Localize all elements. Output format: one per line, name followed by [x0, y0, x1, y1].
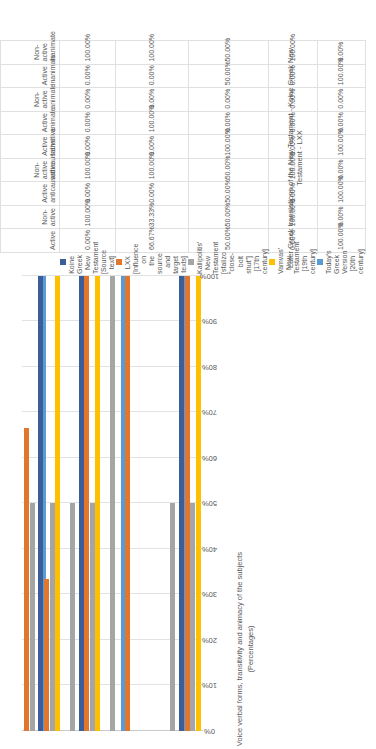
- bar: [170, 504, 175, 732]
- table-cell: 33.33%: [116, 205, 188, 229]
- data-table-head: ActiveNon-activeActive anticausativeNon-…: [1, 41, 60, 277]
- bar: [55, 276, 60, 731]
- bar: [70, 504, 75, 732]
- table-cell: 50.00%: [188, 205, 268, 229]
- table-cell: 0.00%: [317, 88, 365, 112]
- chart-rotation-wrapper: 0%10%20%30%40%50%60%70%80%90%100% Voice …: [0, 0, 376, 749]
- bar: [50, 504, 55, 732]
- table-cell: 0.00%: [116, 64, 188, 88]
- bar-group: [123, 276, 143, 731]
- table-cell: 100.00%: [60, 205, 116, 229]
- value-axis-tick-label: 90%: [195, 317, 225, 326]
- table-column-header: Active inanimate: [1, 64, 60, 88]
- bar: [24, 428, 29, 731]
- table-cell: 50.00%: [188, 158, 268, 182]
- table-cell: 0.00%: [60, 182, 116, 206]
- value-axis-tick-label: 0%: [195, 727, 225, 736]
- table-cell: 0.00%: [60, 135, 116, 159]
- data-table-body: Koine Greek New Testament [Source text]0…: [60, 41, 366, 277]
- bar: [79, 276, 84, 731]
- data-table-wrapper: ActiveNon-activeActive anticausativeNon-…: [0, 40, 276, 276]
- legend-row-header: Today's Greek Version [20th century]: [317, 252, 365, 276]
- table-cell: 0.00%: [317, 205, 365, 229]
- table-column-header: Non-active anticausative: [1, 158, 60, 182]
- table-cell: 50.00%: [188, 182, 268, 206]
- table-cell: 0.00%: [317, 111, 365, 135]
- bar-group: [102, 276, 122, 731]
- table-cell: 0.00%: [60, 229, 116, 253]
- data-table: ActiveNon-activeActive anticausativeNon-…: [0, 40, 366, 276]
- table-row: Today's Greek Version [20th century]100.…: [317, 41, 365, 277]
- table-row: Kallipolitis' New Testament [sfalizo "cl…: [188, 41, 268, 277]
- table-column-header: Active transitive: [1, 135, 60, 159]
- table-cell: 0.00%: [60, 64, 116, 88]
- value-axis-tick-label: 10%: [195, 681, 225, 690]
- bar: [190, 504, 195, 732]
- table-cell: 100.00%: [317, 64, 365, 88]
- legend-row-header: Koine Greek New Testament [Source text]: [60, 252, 116, 276]
- bar: [30, 504, 35, 732]
- bar: [185, 276, 190, 731]
- chart-caption: Later Greek translations of the New Test…: [286, 40, 304, 276]
- table-column-header: Active anticausative: [1, 182, 60, 206]
- value-axis-tick-label: 80%: [195, 363, 225, 372]
- table-cell: 0.00%: [60, 88, 116, 112]
- legend-label: Today's Greek Version [20th century]: [325, 249, 364, 274]
- bar-group: [143, 276, 163, 731]
- bar: [110, 276, 115, 731]
- legend-row-header: Kallipolitis' New Testament [sfalizo "cl…: [188, 252, 268, 276]
- legend-swatch: [269, 259, 275, 265]
- table-cell: 0.00%: [116, 182, 188, 206]
- value-axis-tick-label: 70%: [195, 408, 225, 417]
- bar: [44, 579, 49, 731]
- table-cell: 50.00%: [188, 64, 268, 88]
- bar-group: [82, 276, 102, 731]
- table-cell: 100.00%: [116, 158, 188, 182]
- legend-row-header: LXX [Influence on the source and target …: [116, 252, 188, 276]
- table-cell: 0.00%: [188, 88, 268, 112]
- table-column-header: Active: [1, 229, 60, 253]
- table-cell: 0.00%: [317, 41, 365, 65]
- plot-area: [22, 276, 203, 731]
- legend-swatch: [188, 259, 194, 265]
- chart-figure: 0%10%20%30%40%50%60%70%80%90%100% Voice …: [0, 0, 376, 749]
- value-axis-tick-label: 20%: [195, 636, 225, 645]
- table-column-header: Non-active: [1, 205, 60, 229]
- table-column-header: Active animate: [1, 111, 60, 135]
- table-row: Koine Greek New Testament [Source text]0…: [60, 41, 116, 277]
- table-cell: 0.00%: [317, 158, 365, 182]
- table-column-header: Non-active inanimate: [1, 41, 60, 65]
- table-cell: 0.00%: [116, 135, 188, 159]
- table-cell: 100.00%: [188, 135, 268, 159]
- table-cell: 100.00%: [116, 41, 188, 65]
- table-column-header: Non-active animate: [1, 88, 60, 112]
- value-axis-tick-label: 50%: [195, 499, 225, 508]
- table-cell: 0.00%: [116, 88, 188, 112]
- table-cell: 0.00%: [188, 111, 268, 135]
- table-cell: 100.00%: [317, 182, 365, 206]
- axis-title: Voice verbal forms, transitivity and ani…: [235, 549, 257, 749]
- legend-swatch: [116, 259, 122, 265]
- value-axis-tick-label: 30%: [195, 590, 225, 599]
- value-axis-tick-label: 40%: [195, 545, 225, 554]
- table-cell: 100.00%: [317, 135, 365, 159]
- table-cell: 100.00%: [116, 111, 188, 135]
- table-cell: 0.00%: [60, 111, 116, 135]
- table-cell: 100.00%: [60, 41, 116, 65]
- legend-swatch: [60, 259, 66, 265]
- value-axis-tick-label: 60%: [195, 454, 225, 463]
- data-table-header-row: ActiveNon-activeActive anticausativeNon-…: [1, 41, 60, 277]
- bar: [84, 276, 89, 731]
- bar: [95, 276, 100, 731]
- table-cell: 50.00%: [188, 41, 268, 65]
- value-axis-ticks: 0%10%20%30%40%50%60%70%80%90%100%: [205, 276, 223, 749]
- table-corner-cell: [1, 252, 60, 276]
- legend-swatch: [317, 259, 323, 265]
- bar: [38, 276, 43, 731]
- bar: [90, 504, 95, 732]
- bar-group: [42, 276, 62, 731]
- bar: [125, 276, 130, 731]
- bar: [179, 276, 184, 731]
- table-row: LXX [Influence on the source and target …: [116, 41, 188, 277]
- table-cell: 100.00%: [60, 158, 116, 182]
